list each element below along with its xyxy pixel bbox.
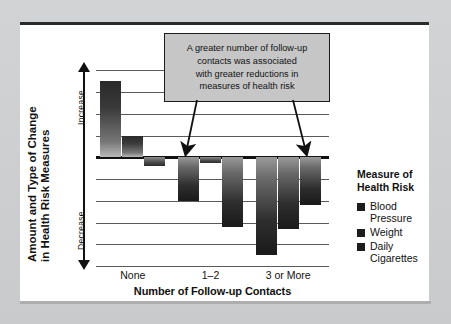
bar [222, 157, 243, 227]
chart-figure: Amount and Type of Change in Health Risk… [0, 0, 451, 324]
legend-swatch-icon [357, 229, 365, 237]
callout-line-2: contacts was associated [197, 56, 297, 66]
legend-swatch-icon [357, 243, 365, 251]
bar [144, 157, 165, 166]
bar [278, 157, 299, 229]
bar [100, 81, 121, 157]
bar [300, 157, 321, 205]
legend-title-line1: Measure of [357, 168, 412, 180]
annotation-arrow-left [187, 100, 197, 148]
annotation-arrow-right [293, 100, 305, 148]
y-axis-title-line2: in Health Risk Measures [39, 106, 52, 262]
y-axis-decrease-label: Decrease [76, 211, 86, 250]
panel-top-rule [20, 22, 429, 25]
y-axis-title-line1: Amount and Type of Change [26, 106, 38, 262]
callout-line-1: A greater number of follow-up [187, 43, 308, 53]
y-axis-increase-label: Increase [76, 90, 86, 125]
legend-item-weight[interactable]: Weight [357, 226, 449, 238]
annotation-callout-box: A greater number of follow-up contacts w… [164, 33, 330, 102]
bar [122, 136, 143, 158]
legend-title-line2: Health Risk [357, 181, 414, 193]
legend-item-label: Blood Pressure [370, 200, 412, 224]
bar [256, 157, 277, 255]
legend-swatch-icon [357, 203, 365, 211]
y-axis-title: Amount and Type of Change in Health Risk… [26, 106, 52, 262]
legend-title: Measure of Health Risk [357, 168, 449, 193]
grid-line [96, 244, 329, 245]
legend-item-daily-cigarettes[interactable]: Daily Cigarettes [357, 240, 449, 264]
legend: Measure of Health Risk Blood Pressure We… [357, 168, 449, 266]
x-axis-title: Number of Follow-up Contacts [96, 285, 329, 297]
callout-line-3: with greater reductions in [196, 69, 299, 79]
callout-line-4: measures of health risk [200, 81, 295, 91]
legend-item-label: Daily Cigarettes [370, 240, 418, 264]
panel-bottom-shadow [20, 301, 431, 304]
x-axis-line [96, 266, 329, 267]
legend-item-blood-pressure[interactable]: Blood Pressure [357, 200, 449, 224]
x-tick-label-2: 3 or More [240, 269, 337, 281]
legend-item-label: Weight [370, 226, 403, 238]
annotation-arrows [164, 100, 334, 164]
